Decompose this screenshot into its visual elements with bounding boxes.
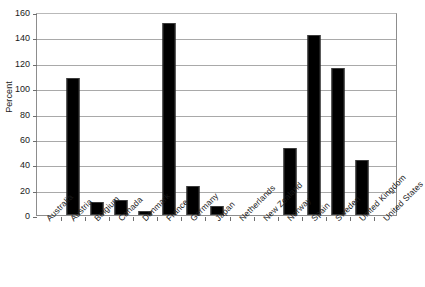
bar-slot — [133, 14, 157, 215]
bar-slot — [350, 14, 374, 215]
bar-slot — [157, 14, 181, 215]
bar-slot — [302, 14, 326, 215]
y-axis-tick-label: 0 — [6, 212, 30, 221]
bar-slot — [326, 14, 350, 215]
y-axis-tick-label: 120 — [6, 59, 30, 68]
bar-slot — [205, 14, 229, 215]
bars-layer — [37, 14, 396, 215]
y-axis-tick-label: 160 — [6, 9, 30, 18]
bar — [163, 23, 176, 215]
x-axis-category-labels: AustraliaAustriaBelgiumCanadaDenmarkFran… — [36, 216, 397, 287]
y-axis-tick-label: 20 — [6, 186, 30, 195]
bar-slot — [61, 14, 85, 215]
bar-slot — [109, 14, 133, 215]
y-axis-tick-label: 40 — [6, 161, 30, 170]
y-axis-tick-label: 100 — [6, 85, 30, 94]
bar-slot — [85, 14, 109, 215]
bar-slot — [181, 14, 205, 215]
y-axis-tick-label: 140 — [6, 34, 30, 43]
bar-slot — [230, 14, 254, 215]
bar — [307, 35, 320, 215]
y-axis-tick-label: 60 — [6, 135, 30, 144]
y-axis-tick-label: 80 — [6, 110, 30, 119]
bar-slot — [254, 14, 278, 215]
bar-slot — [37, 14, 61, 215]
bar — [331, 68, 344, 215]
y-axis-tick-labels: 020406080100120140160 — [0, 0, 30, 287]
plot-area — [36, 13, 397, 216]
